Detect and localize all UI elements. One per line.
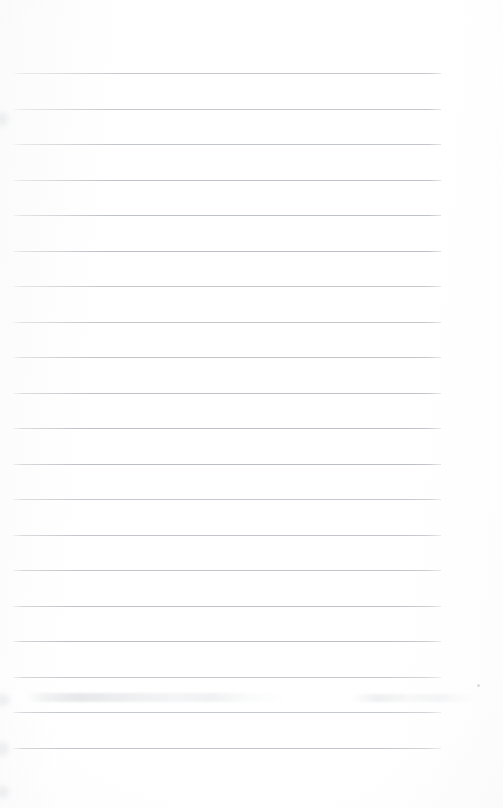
rule-line [13, 180, 441, 181]
rule-line [13, 322, 441, 323]
ruled-lines-layer [0, 0, 503, 808]
scanned-notepad-page: Blank scanned page of ruled notepad pape… [0, 0, 503, 808]
rule-line [13, 464, 441, 465]
rule-line [13, 641, 441, 642]
rule-line [13, 215, 441, 216]
rule-line [13, 109, 441, 110]
rule-line [13, 357, 441, 358]
rule-line [13, 606, 441, 607]
rule-line [13, 144, 441, 145]
rule-line [13, 748, 441, 749]
rule-line [13, 499, 441, 500]
rule-line [13, 251, 441, 252]
rule-line [13, 677, 441, 678]
rule-line [13, 570, 441, 571]
rule-line [13, 393, 441, 394]
rule-line [13, 712, 441, 713]
rule-line [13, 535, 441, 536]
rule-line [13, 73, 441, 74]
rule-line [13, 428, 441, 429]
rule-line [13, 286, 441, 287]
